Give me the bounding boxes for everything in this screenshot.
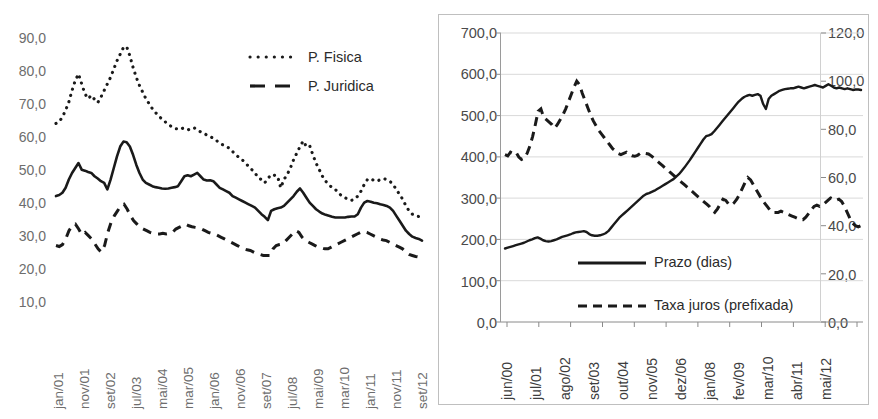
x-axis-tick-label: jan/01	[52, 372, 66, 409]
legend-swatches	[248, 48, 308, 94]
x-axis-tick-label: mai/09	[312, 368, 326, 409]
x-axis-tick-label: jun/00	[500, 362, 514, 400]
x-axis-tick-label: set/12	[416, 372, 430, 409]
x-axis-tick-label: mar/05	[182, 367, 196, 409]
x-axis-tick-label: nov/05	[645, 358, 659, 400]
axis-ticks	[496, 33, 857, 327]
gridlines	[501, 33, 863, 322]
x-axis-tick-label: mai/04	[156, 368, 170, 409]
prazo-taxa-chart: 700,0 600,0 500,0 400,0 300,0 200,0 100,…	[438, 0, 878, 419]
legend-label-p-juridica: P. Juridica	[308, 79, 374, 94]
x-axis-tick-label: jul/08	[286, 377, 300, 409]
series-prazo	[505, 84, 861, 248]
x-axis-tick-label: nov/06	[234, 368, 248, 409]
x-axis-tick-label: nov/01	[78, 368, 92, 409]
x-axis-tick-label: out/04	[616, 361, 630, 400]
x-axis-tick-label: jul/01	[529, 367, 543, 400]
legend-label-taxa-juros: Taxa juros (prefixada)	[654, 298, 793, 313]
x-axis-tick-label: nov/11	[390, 369, 404, 409]
series-p-juridica	[56, 204, 422, 257]
x-axis-tick-label: jan/11	[364, 373, 378, 409]
x-axis-tick-label: set/03	[587, 362, 601, 400]
legend-label-p-fisica: P. Fisica	[308, 50, 362, 65]
x-axis-tick-label: abr/11	[790, 361, 804, 400]
series-p-fisica	[56, 47, 422, 217]
x-axis-tick-label: set/02	[104, 372, 118, 409]
plot-area	[0, 0, 438, 419]
x-axis-tick-label: mar/10	[338, 367, 352, 409]
x-axis-tick-label: jan/08	[703, 362, 717, 400]
figure-root: 90,0 80,0 70,0 60,0 50,0 40,0 30,0 20,0 …	[0, 0, 878, 419]
x-axis-tick-label: set/07	[260, 372, 274, 409]
legend-swatches	[576, 253, 656, 323]
x-axis-tick-label: mai/12	[819, 358, 833, 400]
plot-area	[438, 0, 878, 419]
x-axis-tick-label: jan/06	[208, 372, 222, 409]
legend-label-prazo: Prazo (dias)	[654, 255, 732, 270]
x-axis-tick-label: ago/02	[558, 357, 572, 400]
credit-spread-chart: 90,0 80,0 70,0 60,0 50,0 40,0 30,0 20,0 …	[0, 0, 438, 419]
x-axis-tick-label: jul/03	[130, 377, 144, 409]
x-axis-tick-label: fev/09	[732, 362, 746, 400]
x-axis-tick-label: mar/10	[761, 356, 775, 400]
x-axis-tick-label: dez/06	[674, 358, 688, 400]
series-taxa-juros	[505, 81, 861, 227]
